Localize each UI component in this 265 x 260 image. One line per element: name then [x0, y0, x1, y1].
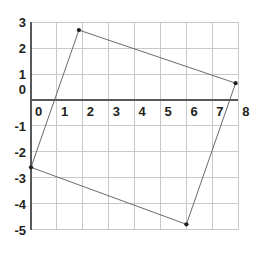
x-tick-label: 7 [216, 105, 223, 118]
x-tick-label: 1 [61, 105, 68, 118]
vertex-point [77, 28, 81, 32]
y-tick-label: 0 [19, 83, 26, 96]
x-tick-label: 4 [139, 105, 146, 118]
polygon-series [31, 30, 236, 224]
y-tick-label: 2 [19, 42, 26, 55]
x-tick-label: 3 [113, 105, 120, 118]
x-tick-label: 5 [165, 105, 172, 118]
vertex-markers [29, 28, 238, 226]
coordinate-plane-chart: 012345678 3210-1-2-3-4-5 [0, 0, 265, 260]
polygon-shape [31, 30, 236, 224]
vertex-point [29, 165, 33, 169]
x-tick-label: 8 [242, 105, 249, 118]
y-tick-label: -1 [14, 120, 26, 133]
plot-area [0, 0, 265, 260]
y-tick-label: 1 [19, 68, 26, 81]
y-tick-label: -3 [14, 172, 26, 185]
y-tick-label: -4 [14, 198, 26, 211]
y-tick-label: -2 [14, 146, 26, 159]
x-tick-label: 6 [190, 105, 197, 118]
vertex-point [184, 222, 188, 226]
x-tick-label: 0 [35, 105, 42, 118]
vertex-point [234, 81, 238, 85]
grid-lines [31, 22, 238, 229]
x-tick-label: 2 [87, 105, 94, 118]
y-tick-label: 3 [19, 16, 26, 29]
y-tick-label: -5 [14, 224, 26, 237]
